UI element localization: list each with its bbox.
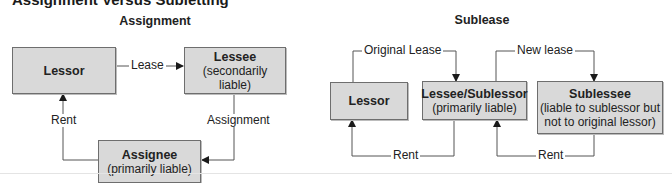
- edge-label-original-lease: Original Lease: [362, 44, 443, 57]
- edge-label-lease: Lease: [129, 59, 166, 72]
- assignment-lessee-box: Lessee (secondarily liable): [184, 47, 286, 94]
- box-title: Lessee/Sublessor: [421, 87, 527, 101]
- bottom-divider: [0, 173, 672, 174]
- sublease-sublessee-box: Sublessee (liable to sublessor but not t…: [537, 81, 663, 134]
- box-title: Lessee: [214, 50, 256, 64]
- sublease-lessor-box: Lessor: [330, 82, 408, 120]
- sublease-sublessor-box: Lessee/Sublessor (primarily liable): [422, 81, 527, 120]
- box-subtitle-line2: not to original lessor): [544, 115, 655, 129]
- edge-label-assignment: Assignment: [205, 114, 272, 127]
- box-title: Sublessee: [569, 87, 631, 101]
- box-subtitle-line1: (liable to sublessor but: [540, 101, 660, 115]
- edge-label-rent-2: Rent: [536, 149, 565, 162]
- edge-label-rent-1: Rent: [391, 149, 420, 162]
- edge-label-rent: Rent: [49, 114, 78, 127]
- box-subtitle: (primarily liable): [432, 101, 517, 115]
- assignment-assignee-box: Assignee (primarily liable): [98, 140, 201, 183]
- box-title: Lessor: [44, 64, 85, 78]
- box-title: Assignee: [122, 148, 178, 162]
- assignment-heading: Assignment: [105, 14, 205, 28]
- box-subtitle: (secondarily liable): [185, 64, 285, 92]
- box-title: Lessor: [349, 94, 390, 108]
- assignment-lessor-box: Lessor: [12, 47, 116, 94]
- edge-label-new-lease: New lease: [515, 44, 575, 57]
- sublease-heading: Sublease: [442, 13, 522, 27]
